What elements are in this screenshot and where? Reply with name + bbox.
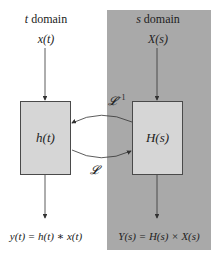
s-domain-output: Y(s) = H(s) × X(s) [107,230,211,242]
t-domain-output: y(t) = h(t) ∗ x(t) [0,230,92,243]
t-block-label: h(t) [36,130,55,146]
inverse-symbol: 𝓛 [108,94,117,108]
s-block-label: H(s) [146,130,169,146]
inverse-laplace-arrow [72,115,132,123]
inverse-transform-label: 𝓛−1 [108,93,126,109]
t-domain-block: h(t) [20,101,71,175]
s-domain-block: H(s) [132,101,183,175]
laplace-arrow [72,150,131,158]
inverse-sup: −1 [117,93,126,102]
forward-transform-label: 𝓛 [90,163,99,178]
